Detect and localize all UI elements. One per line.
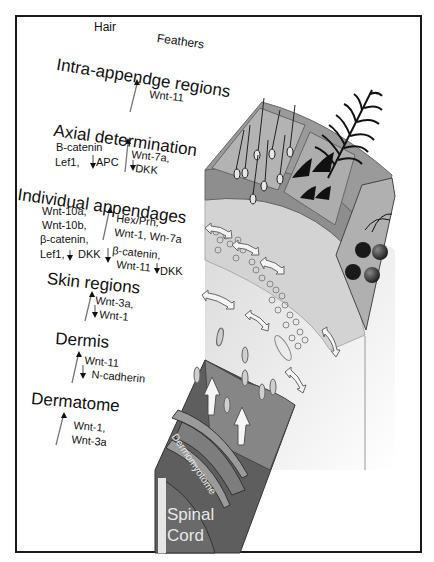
regulation-arrows — [56, 79, 160, 445]
spinal-cord-label-line1: Spinal — [167, 506, 214, 523]
spinal-cord-label-line2: Cord — [167, 527, 204, 544]
up-arrow-intra — [130, 84, 137, 112]
developmental-illustration — [0, 0, 434, 562]
